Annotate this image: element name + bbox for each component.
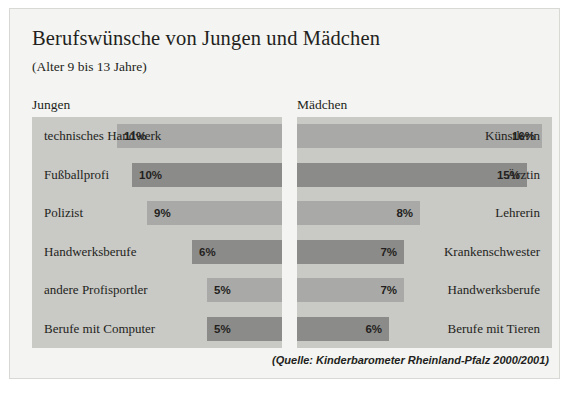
category-row: andere Profisportler <box>32 271 282 310</box>
category-row: Berufe mit Computer <box>32 310 282 349</box>
category-label-jungen-0: technisches Handwerk <box>44 128 161 144</box>
category-label-jungen-4: andere Profisportler <box>44 282 148 298</box>
column-header-jungen: Jungen <box>32 97 70 113</box>
category-row: Künstlerin <box>297 117 552 156</box>
chart-subtitle: (Alter 9 bis 13 Jahre) <box>32 59 147 75</box>
category-row: Lehrerin <box>297 194 552 233</box>
column-header-maedchen: Mädchen <box>297 97 347 113</box>
category-label-maedchen-3: Krankenschwester <box>444 244 540 260</box>
category-row: Handwerksberufe <box>297 271 552 310</box>
chart-figure: Berufswünsche von Jungen und Mädchen (Al… <box>9 8 560 379</box>
category-row: Berufe mit Tieren <box>297 310 552 349</box>
category-row: Ärztin <box>297 156 552 195</box>
category-label-jungen-1: Fußballprofi <box>44 167 109 183</box>
category-row: Fußballprofi <box>32 156 282 195</box>
category-row: technisches Handwerk <box>32 117 282 156</box>
category-label-maedchen-1: Ärztin <box>507 167 540 183</box>
category-row: Krankenschwester <box>297 233 552 272</box>
category-label-jungen-2: Polizist <box>44 205 83 221</box>
category-row: Handwerksberufe <box>32 233 282 272</box>
source-note: (Quelle: Kinderbarometer Rheinland-Pfalz… <box>272 354 549 366</box>
category-labels-maedchen: KünstlerinÄrztinLehrerinKrankenschwester… <box>297 117 552 348</box>
category-label-jungen-5: Berufe mit Computer <box>44 321 155 337</box>
page-title: Berufswünsche von Jungen und Mädchen <box>32 27 380 50</box>
category-label-jungen-3: Handwerksberufe <box>44 244 136 260</box>
category-label-maedchen-2: Lehrerin <box>495 205 540 221</box>
category-label-maedchen-5: Berufe mit Tieren <box>448 321 540 337</box>
category-row: Polizist <box>32 194 282 233</box>
category-label-maedchen-0: Künstlerin <box>485 128 540 144</box>
category-label-maedchen-4: Handwerksberufe <box>448 282 540 298</box>
category-labels-jungen: technisches HandwerkFußballprofiPolizist… <box>32 117 282 348</box>
